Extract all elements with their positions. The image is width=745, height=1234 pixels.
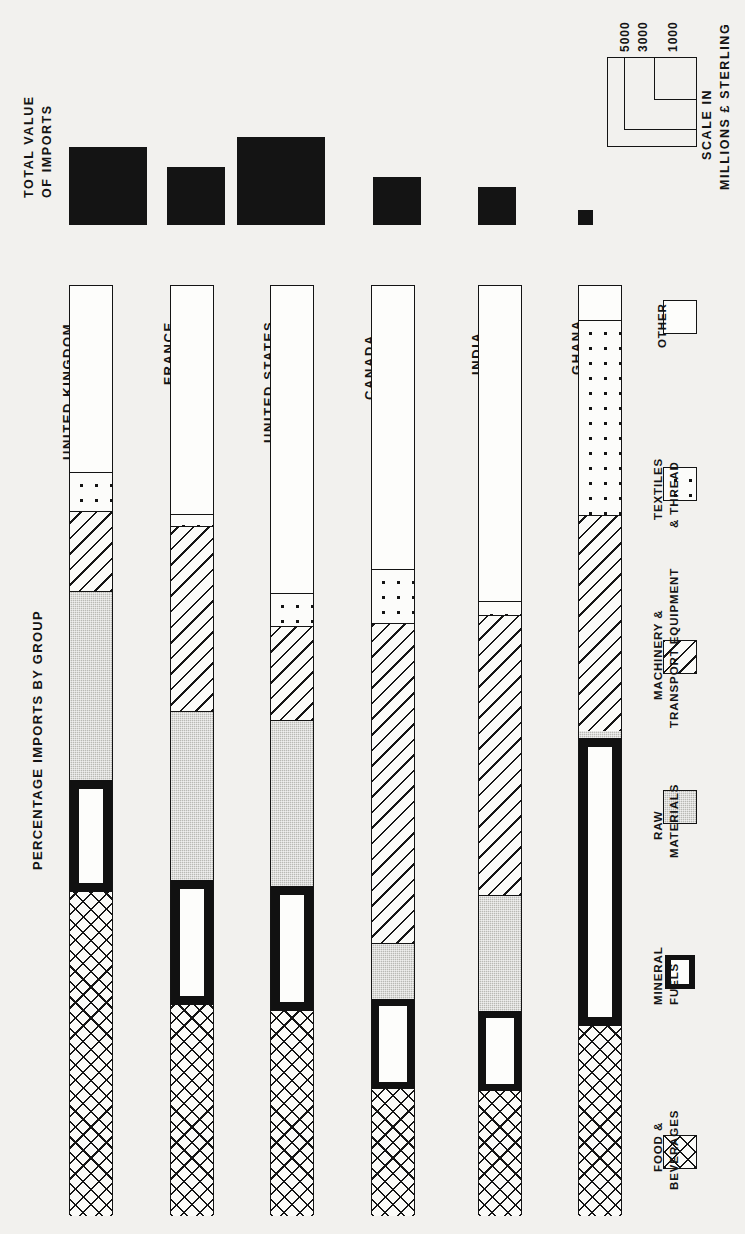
segment-food-united-states [271, 1011, 313, 1216]
segment-raw-materials-united-kingdom [70, 592, 112, 780]
segment-raw-materials-india [479, 896, 521, 1011]
segment-raw-materials-canada [372, 944, 414, 999]
legend-swatch-other [663, 300, 697, 334]
segment-food-united-kingdom [70, 892, 112, 1216]
total-value-square-india [478, 187, 516, 225]
segment-machinery-united-states [271, 627, 313, 721]
segment-mineral-fuels-ghana [579, 738, 621, 1026]
segment-mineral-fuels-france [171, 880, 213, 1005]
segment-machinery-india [479, 616, 521, 896]
segment-mineral-fuels-canada [372, 999, 414, 1089]
segment-textiles-united-states [271, 593, 313, 627]
segment-machinery-ghana [579, 516, 621, 731]
segment-other-united-kingdom [70, 286, 112, 472]
segment-textiles-france [171, 514, 213, 527]
segment-food-ghana [579, 1026, 621, 1216]
total-value-square-ghana [578, 210, 593, 225]
legend-label-mach-line1: MACHINERY & [652, 610, 664, 700]
segment-textiles-united-kingdom [70, 472, 112, 512]
legend-label-raw-line2: MATERIALS [668, 784, 680, 858]
legend-label-mach-line2: TRANSPORT EQUIPMENT [668, 568, 680, 728]
legend-label-fuel-line1: MINERAL [652, 946, 664, 1005]
bar-france[interactable] [170, 285, 214, 1215]
figure-canvas: TOTAL VALUE OF IMPORTS 5000 3000 1000 SC… [0, 0, 745, 1234]
segment-mineral-fuels-india [479, 1011, 521, 1091]
legend-label-food-line1: FOOD & [652, 1122, 664, 1172]
segment-other-united-states [271, 286, 313, 593]
segment-other-ghana [579, 286, 621, 320]
segment-raw-materials-france [171, 712, 213, 880]
segment-mineral-fuels-united-kingdom [70, 780, 112, 892]
bar-india[interactable] [478, 285, 522, 1215]
scale-title-line1: SCALE IN [700, 89, 714, 160]
scale-tick-5000: 5000 [618, 21, 632, 52]
segment-other-canada [372, 286, 414, 569]
segment-textiles-ghana [579, 320, 621, 516]
bar-united-states[interactable] [270, 285, 314, 1215]
segment-textiles-india [479, 601, 521, 616]
segment-food-india [479, 1091, 521, 1216]
bar-canada[interactable] [371, 285, 415, 1215]
segment-machinery-france [171, 527, 213, 712]
segment-machinery-united-kingdom [70, 512, 112, 592]
top-panel-title-line1: TOTAL VALUE [22, 95, 36, 198]
total-value-square-united-states [237, 137, 325, 225]
bottom-panel-title: PERCENTAGE IMPORTS BY GROUP [30, 610, 45, 870]
segment-raw-materials-united-states [271, 721, 313, 886]
top-panel-title-line2: OF IMPORTS [40, 104, 54, 198]
total-value-square-canada [373, 177, 421, 225]
segment-machinery-canada [372, 624, 414, 944]
segment-textiles-canada [372, 569, 414, 624]
segment-other-india [479, 286, 521, 601]
segment-mineral-fuels-united-states [271, 886, 313, 1011]
legend-label-raw-line1: RAW [652, 810, 664, 840]
legend-label-other: OTHER [656, 303, 668, 348]
segment-food-canada [372, 1089, 414, 1216]
total-value-square-france [167, 167, 225, 225]
legend-label-tex-line1: TEXTILES [652, 458, 664, 520]
bar-united-kingdom[interactable] [69, 285, 113, 1215]
legend-label-fuel-line2: FUELS [668, 963, 680, 1005]
scale-tick-3000: 3000 [636, 21, 650, 52]
total-value-square-united-kingdom [69, 147, 147, 225]
bar-ghana[interactable] [578, 285, 622, 1215]
legend-label-tex-line2: & THREAD [668, 461, 680, 528]
segment-food-france [171, 1005, 213, 1216]
segment-other-france [171, 286, 213, 514]
segment-raw-materials-ghana [579, 731, 621, 738]
scale-square-1000 [654, 57, 697, 100]
legend-label-food-line2: BEVERAGES [668, 1110, 680, 1190]
scale-title-line2: MILLIONS £ STERLING [718, 23, 732, 190]
scale-tick-1000: 1000 [666, 21, 680, 52]
